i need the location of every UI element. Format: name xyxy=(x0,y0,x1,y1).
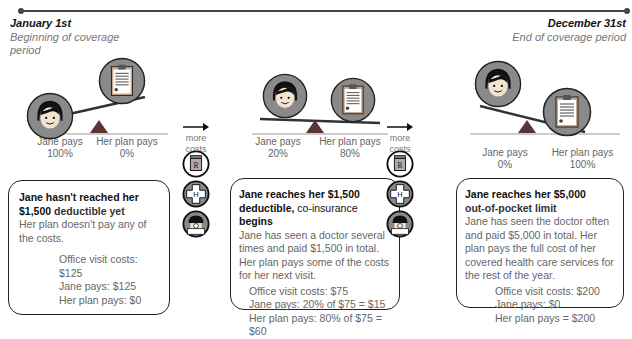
stage-1-heading: Jane hasn't reached her $1,500 deductibl… xyxy=(19,191,159,218)
arrow-right-icon xyxy=(387,123,413,131)
arrow-right-icon xyxy=(183,123,209,131)
timeline-end-dot xyxy=(624,8,630,14)
jane-pays-label: Jane pays xyxy=(30,136,90,148)
stage-2-card: Jane reaches her $1,500 deductible, co-i… xyxy=(230,178,400,310)
jane-face-icon xyxy=(474,60,522,108)
stage-1-breakdown: Office visit costs: $125 Jane pays: $125… xyxy=(19,253,159,307)
stage-1-description: Her plan doesn't pay any of the costs. xyxy=(19,218,159,245)
stage-1-jane-pays: Jane pays 100% xyxy=(30,136,90,160)
end-date: December 31st xyxy=(548,17,626,29)
stage-3-heading: Jane reaches her $5,000 out-of-pocket li… xyxy=(465,188,615,215)
jane-face-icon xyxy=(262,73,308,119)
stage-2-plan-pays: Her plan pays 80% xyxy=(315,136,385,160)
stage-3-jane-pays: Jane pays 0% xyxy=(475,147,535,171)
stage-2-heading: Jane reaches her $1,500 deductible, co-i… xyxy=(239,188,391,229)
stage-3-description: Jane has seen the doctor often and paid … xyxy=(465,215,615,283)
jane-pays-percent: 20% xyxy=(248,148,308,160)
stage-3-breakdown: Office visit costs: $200 Jane pays: $0 H… xyxy=(465,285,615,326)
stage-3-card: Jane reaches her $5,000 out-of-pocket li… xyxy=(456,178,624,308)
stage-2-jane-pays: Jane pays 20% xyxy=(248,136,308,160)
plan-clipboard-icon xyxy=(98,57,146,105)
end-period-label: End of coverage period xyxy=(512,31,626,44)
scale-stage-1 xyxy=(20,55,170,135)
hospital-h-icon xyxy=(386,180,414,208)
stage-2-breakdown: Office visit costs: $75 Jane pays: 20% o… xyxy=(239,285,391,339)
stage-1-plan-pays: Her plan pays 0% xyxy=(92,136,162,160)
prescription-rx-icon xyxy=(386,150,414,178)
plan-clipboard-icon xyxy=(330,77,376,123)
plan-pays-label: Her plan pays xyxy=(92,136,162,148)
jane-pays-percent: 0% xyxy=(475,159,535,171)
doctor-icon xyxy=(182,210,210,238)
plan-pays-label: Her plan pays xyxy=(315,136,385,148)
plan-pays-label: Her plan pays xyxy=(545,147,620,159)
stage-1-card: Jane hasn't reached her $1,500 deductibl… xyxy=(8,180,170,315)
timeline-start-dot xyxy=(18,8,24,14)
scale-stage-2 xyxy=(240,55,390,135)
jane-pays-percent: 100% xyxy=(30,148,90,160)
plan-pays-percent: 80% xyxy=(315,148,385,160)
jane-pays-label: Jane pays xyxy=(248,136,308,148)
hospital-h-icon xyxy=(182,180,210,208)
stage-3-plan-pays: Her plan pays 100% xyxy=(545,147,620,171)
start-period-label: Beginning of coverage period xyxy=(10,31,130,57)
plan-pays-percent: 0% xyxy=(92,148,162,160)
doctor-icon xyxy=(386,210,414,238)
start-date: January 1st xyxy=(10,17,71,29)
stage-2-description: Jane has seen a doctor several times and… xyxy=(239,229,391,283)
jane-pays-label: Jane pays xyxy=(475,147,535,159)
scale-stage-3 xyxy=(470,55,630,135)
plan-pays-percent: 100% xyxy=(545,159,620,171)
prescription-rx-icon xyxy=(182,150,210,178)
plan-clipboard-icon xyxy=(542,87,592,137)
timeline-bar xyxy=(21,10,627,12)
jane-face-icon xyxy=(26,92,74,140)
